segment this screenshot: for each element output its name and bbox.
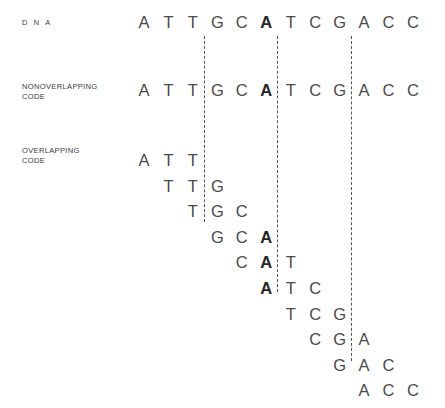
base-overlapping-triplet-9-col10: C [378, 355, 400, 375]
base-overlapping-triplet-10-col10: C [378, 380, 400, 400]
base-nonoverlapping-code-col6: T [280, 80, 302, 100]
base-dna-col8: G [329, 12, 351, 32]
base-dna-col11: C [402, 12, 424, 32]
base-overlapping-triplet-2-col2: T [182, 176, 204, 196]
base-nonoverlapping-code-col7: C [304, 80, 326, 100]
base-overlapping-triplet-5-col5: A [255, 252, 277, 272]
base-overlapping-triplet-2-col3: G [206, 176, 228, 196]
base-overlapping-triplet-5-col4: C [231, 252, 253, 272]
base-nonoverlapping-code-col11: C [402, 80, 424, 100]
base-nonoverlapping-code-col3: G [206, 80, 228, 100]
base-overlapping-triplet-8-col9: A [353, 329, 375, 349]
base-nonoverlapping-code-col9: A [353, 80, 375, 100]
base-dna-col2: T [182, 12, 204, 32]
base-overlapping-triplet-9-col9: A [353, 355, 375, 375]
base-overlapping-triplet-6-col7: C [304, 278, 326, 298]
base-dna-col7: C [304, 12, 326, 32]
base-overlapping-triplet-7-col6: T [280, 304, 302, 324]
caption-bleed [0, 403, 445, 408]
base-overlapping-triplet-1-col0: A [133, 150, 155, 170]
base-overlapping-triplet-6-col6: T [280, 278, 302, 298]
base-overlapping-triplet-4-col3: G [206, 227, 228, 247]
base-dna-col3: G [206, 12, 228, 32]
base-overlapping-triplet-5-col6: T [280, 252, 302, 272]
base-dna-col6: T [280, 12, 302, 32]
genetic-code-diagram: D N A NONOVERLAPPING CODE OVERLAPPING CO… [0, 0, 445, 408]
base-nonoverlapping-code-col0: A [133, 80, 155, 100]
base-dna-col5: A [255, 12, 277, 32]
base-overlapping-triplet-7-col7: C [304, 304, 326, 324]
base-overlapping-triplet-7-col8: G [329, 304, 351, 324]
base-overlapping-triplet-8-col7: C [304, 329, 326, 349]
base-overlapping-triplet-10-col11: C [402, 380, 424, 400]
base-overlapping-triplet-6-col5: A [255, 278, 277, 298]
base-nonoverlapping-code-col4: C [231, 80, 253, 100]
base-overlapping-triplet-10-col9: A [353, 380, 375, 400]
base-overlapping-triplet-1-col1: T [157, 150, 179, 170]
base-nonoverlapping-code-col5: A [255, 80, 277, 100]
row-label-nonoverlapping-code: NONOVERLAPPING CODE [22, 82, 98, 101]
base-overlapping-triplet-1-col2: T [182, 150, 204, 170]
row-label-overlapping-code: OVERLAPPING CODE [22, 146, 80, 165]
base-dna-col0: A [133, 12, 155, 32]
base-dna-col1: T [157, 12, 179, 32]
codon-divider-3 [351, 36, 352, 361]
base-overlapping-triplet-8-col8: G [329, 329, 351, 349]
base-nonoverlapping-code-col2: T [182, 80, 204, 100]
base-overlapping-triplet-4-col4: C [231, 227, 253, 247]
base-nonoverlapping-code-col10: C [378, 80, 400, 100]
base-dna-col10: C [378, 12, 400, 32]
base-overlapping-triplet-4-col5: A [255, 227, 277, 247]
base-nonoverlapping-code-col1: T [157, 80, 179, 100]
row-label-dna: D N A [22, 18, 52, 28]
base-dna-col9: A [353, 12, 375, 32]
base-overlapping-triplet-3-col4: C [231, 201, 253, 221]
base-overlapping-triplet-3-col3: G [206, 201, 228, 221]
base-overlapping-triplet-9-col8: G [329, 355, 351, 375]
codon-divider-1 [204, 36, 205, 222]
base-dna-col4: C [231, 12, 253, 32]
base-overlapping-triplet-2-col1: T [157, 176, 179, 196]
base-overlapping-triplet-3-col2: T [182, 201, 204, 221]
base-nonoverlapping-code-col8: G [329, 80, 351, 100]
